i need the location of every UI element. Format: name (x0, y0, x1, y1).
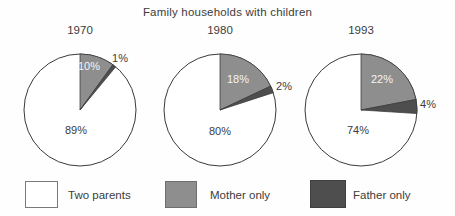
value-label-father-only: 1% (112, 52, 128, 64)
pie-group-1970: 1970 10% 1% 89% (5, 22, 155, 182)
pie-group-1980: 1980 18% 2% 80% (145, 22, 295, 182)
value-label-mother-only: 22% (371, 73, 393, 85)
value-label-father-only: 4% (420, 98, 436, 110)
legend-label-father-only: Father only (353, 189, 411, 201)
value-label-two-parents: 89% (65, 124, 87, 136)
value-label-mother-only: 18% (227, 73, 249, 85)
value-label-mother-only: 10% (78, 60, 100, 72)
legend-label-two-parents: Two parents (68, 189, 131, 201)
pie-group-1993: 1993 22% 4% 74% (286, 22, 436, 182)
chart-title: Family households with children (0, 6, 455, 18)
year-label-1970: 1970 (5, 24, 155, 36)
legend-label-mother-only: Mother only (210, 189, 270, 201)
legend: Two parents Mother only Father only (0, 175, 455, 216)
legend-swatch-father-only (310, 180, 346, 208)
legend-swatch-two-parents (25, 181, 58, 208)
value-label-two-parents: 80% (209, 125, 231, 137)
value-label-two-parents: 74% (347, 124, 369, 136)
year-label-1993: 1993 (286, 24, 436, 36)
pie-chart-1993 (301, 50, 421, 170)
legend-swatch-mother-only (165, 181, 197, 208)
pie-chart-1980 (160, 50, 280, 170)
figure-family-households: Family households with children 1970 10%… (0, 0, 455, 216)
year-label-1980: 1980 (145, 24, 295, 36)
